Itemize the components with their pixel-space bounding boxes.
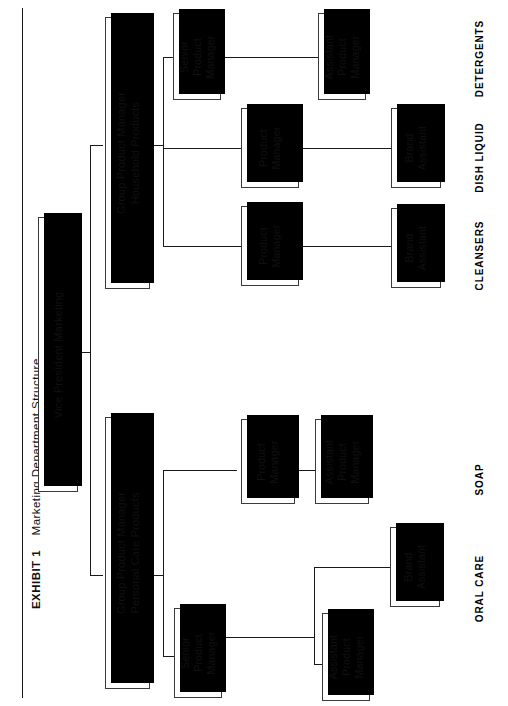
- node-label: Assistant Product Manager: [327, 635, 366, 679]
- connector-spm-oral-stub: [222, 637, 315, 638]
- connector-oral-bracket: [314, 567, 315, 665]
- node-label: Assistant Product Manager: [323, 34, 362, 78]
- node-label: Vice President Marketing: [51, 291, 65, 418]
- node-assistant-product-manager-soap[interactable]: Assistant Product Manager: [315, 419, 369, 504]
- connector-vp-to-personal: [90, 575, 103, 576]
- exhibit-label: EXHIBIT 1: [30, 550, 42, 609]
- node-label: Senior Product Manager: [179, 632, 218, 675]
- node-product-manager-soap[interactable]: Product Manager: [241, 419, 295, 504]
- node-label: Product Manager: [257, 127, 283, 170]
- connector-vp-to-household: [90, 145, 103, 146]
- node-senior-product-manager-oral-care[interactable]: Senior Product Manager: [174, 608, 222, 698]
- connector-household-bracket: [163, 57, 164, 247]
- node-assistant-product-manager-detergents[interactable]: Assistant Product Manager: [318, 13, 366, 100]
- category-label-oral-care: ORAL CARE: [474, 529, 485, 649]
- org-chart-page: EXHIBIT 1 Marketing Department Structure…: [0, 0, 508, 706]
- connector-oral-to-apm-oral: [314, 664, 322, 665]
- node-label: Brand Assistant: [403, 126, 429, 170]
- node-label: Brand Assistant: [403, 226, 429, 270]
- node-brand-assistant-cleansers[interactable]: Brand Assistant: [391, 208, 441, 288]
- connector-personal-bracket: [163, 470, 164, 657]
- node-label: Group Product Manager Household Products: [114, 92, 142, 214]
- title-divider: [22, 8, 23, 698]
- connector-pm-dish-to-ba-dish: [299, 148, 391, 149]
- node-group-product-manager-personal-care[interactable]: Group Product Manager Personal Care Prod…: [105, 417, 150, 689]
- node-brand-assistant-dish-liquid[interactable]: Brand Assistant: [391, 108, 441, 188]
- node-assistant-product-manager-oral-care[interactable]: Assistant Product Manager: [322, 613, 370, 701]
- connector-household-to-pm-clean: [163, 246, 241, 247]
- node-label: Assistant Product Manager: [323, 439, 362, 483]
- node-label: Brand Assistant: [402, 545, 428, 589]
- category-label-soap: SOAP: [474, 420, 485, 540]
- node-vice-president-marketing[interactable]: Vice President Marketing: [38, 217, 78, 492]
- node-label: Senior Product Manager: [178, 35, 217, 78]
- node-label: Product Manager: [257, 225, 283, 268]
- connector-spm-det-to-apm-det: [221, 57, 318, 58]
- connector-vp-spine: [90, 145, 91, 575]
- node-product-manager-dish-liquid[interactable]: Product Manager: [241, 108, 299, 188]
- category-label-cleansers: CLEANSERS: [474, 196, 485, 316]
- node-product-manager-cleansers[interactable]: Product Manager: [241, 206, 299, 286]
- node-label: Group Product Manager Personal Care Prod…: [114, 492, 142, 614]
- node-group-product-manager-household[interactable]: Group Product Manager Household Products: [105, 17, 150, 289]
- node-brand-assistant-oral-care[interactable]: Brand Assistant: [390, 527, 440, 607]
- node-senior-product-manager-detergents[interactable]: Senior Product Manager: [173, 13, 221, 100]
- connector-household-to-pm-dish: [163, 148, 241, 149]
- node-label: Product Manager: [255, 440, 281, 483]
- connector-pm-clean-to-ba-clean: [299, 246, 391, 247]
- connector-personal-to-pm-soap: [163, 470, 237, 471]
- connector-oral-to-ba-oral: [314, 567, 390, 568]
